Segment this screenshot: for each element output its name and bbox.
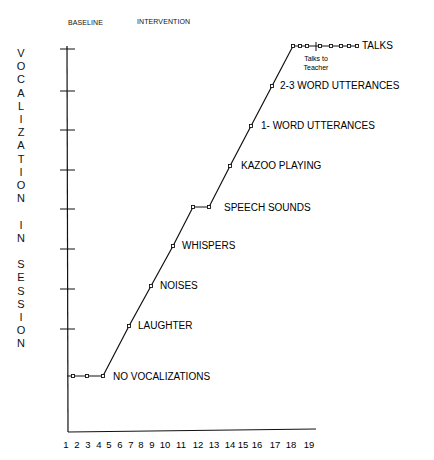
x-tick-label: 1 xyxy=(63,439,68,450)
level-label: 1- WORD UTTERANCES xyxy=(261,120,375,131)
data-point xyxy=(319,45,322,48)
annotation-teacher: Teacher xyxy=(304,64,330,71)
data-point xyxy=(102,375,105,378)
data-point xyxy=(192,206,195,209)
level-label: LAUGHTER xyxy=(138,320,192,331)
data-point xyxy=(172,245,175,248)
annotation-talks-to: Talks to xyxy=(304,55,328,62)
data-point xyxy=(271,85,274,88)
x-tick-label: 17 xyxy=(270,439,281,450)
level-label: WHISPERS xyxy=(182,240,236,251)
data-point xyxy=(299,45,302,48)
x-tick-label: 15 xyxy=(238,439,249,450)
x-tick-label: 10 xyxy=(160,439,171,450)
x-tick-label: 18 xyxy=(286,439,297,450)
data-point xyxy=(330,45,333,48)
x-tick-label: 2 xyxy=(74,439,79,450)
x-tick-label: 7 xyxy=(128,439,133,450)
x-tick-label: 9 xyxy=(149,439,154,450)
data-point xyxy=(128,325,131,328)
x-axis xyxy=(68,429,316,432)
level-label: TALKS xyxy=(362,40,393,51)
data-point xyxy=(356,45,359,48)
data-point xyxy=(292,45,295,48)
level-label: 2-3 WORD UTTERANCES xyxy=(280,80,400,91)
line-chart: 12345678910111213141516171819NO VOCALIZA… xyxy=(0,0,434,460)
x-tick-label: 16 xyxy=(252,439,263,450)
x-tick-label: 8 xyxy=(138,439,143,450)
x-tick-label: 6 xyxy=(117,439,122,450)
level-label: SPEECH SOUNDS xyxy=(224,202,311,213)
data-point xyxy=(150,285,153,288)
level-label: NO VOCALIZATIONS xyxy=(113,371,210,382)
level-label: KAZOO PLAYING xyxy=(241,160,322,171)
x-tick-label: 11 xyxy=(176,439,186,450)
x-tick-label: 3 xyxy=(85,439,90,450)
x-tick-label: 13 xyxy=(209,439,220,450)
x-tick-label: 19 xyxy=(304,439,315,450)
data-point xyxy=(229,165,232,168)
level-label: NOISES xyxy=(160,280,198,291)
data-point xyxy=(250,125,253,128)
data-point xyxy=(86,375,89,378)
data-point xyxy=(348,45,351,48)
x-tick-label: 14 xyxy=(225,439,236,450)
x-tick-label: 4 xyxy=(96,439,101,450)
x-tick-label: 12 xyxy=(193,439,204,450)
x-tick-label: 5 xyxy=(106,439,111,450)
data-line xyxy=(67,46,357,376)
data-point xyxy=(306,45,309,48)
y-axis xyxy=(67,46,68,432)
data-point xyxy=(72,375,75,378)
data-point xyxy=(208,206,211,209)
data-point xyxy=(340,45,343,48)
